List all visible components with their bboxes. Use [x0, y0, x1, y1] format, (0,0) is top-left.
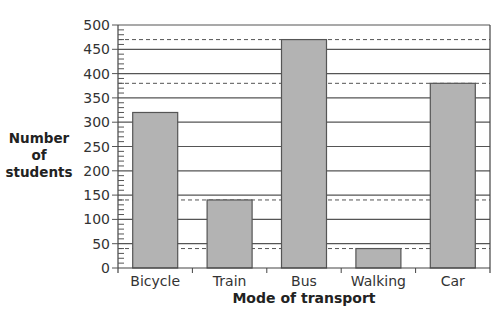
- y-tick-label: 100: [83, 211, 110, 227]
- bar-bicycle: [133, 112, 178, 268]
- bar-train: [207, 200, 252, 268]
- y-tick-label: 50: [92, 236, 110, 252]
- category-label: Bicycle: [130, 273, 180, 289]
- category-label: Bus: [291, 273, 317, 289]
- category-label: Walking: [351, 273, 406, 289]
- y-tick-label: 400: [83, 66, 110, 82]
- x-axis-label: Mode of transport: [118, 290, 490, 306]
- bar-walking: [356, 249, 401, 268]
- category-label: Car: [441, 273, 465, 289]
- bar-chart: BicycleTrainBusWalkingCar050100150200250…: [0, 0, 503, 327]
- y-tick-label: 200: [83, 163, 110, 179]
- y-tick-label: 150: [83, 187, 110, 203]
- bar-bus: [282, 40, 327, 268]
- y-tick-label: 300: [83, 114, 110, 130]
- y-tick-label: 500: [83, 17, 110, 33]
- category-label: Train: [212, 273, 247, 289]
- y-tick-label: 250: [83, 139, 110, 155]
- y-tick-label: 0: [101, 260, 110, 276]
- y-tick-label: 350: [83, 90, 110, 106]
- y-tick-label: 450: [83, 41, 110, 57]
- bar-car: [430, 83, 475, 268]
